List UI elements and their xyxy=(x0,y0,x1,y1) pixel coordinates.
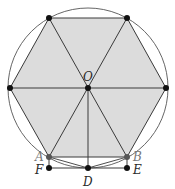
point-e xyxy=(124,165,130,171)
point-v2 xyxy=(124,15,130,21)
point-v6 xyxy=(7,85,13,91)
point-f xyxy=(46,165,52,171)
geometry-figure: O A B F E D xyxy=(0,0,175,189)
label-a: A xyxy=(34,150,44,164)
label-o: O xyxy=(83,70,93,84)
hexagon-circle-diagram: O A B F E D xyxy=(0,0,175,189)
label-f: F xyxy=(34,163,44,177)
label-e: E xyxy=(132,163,142,177)
label-d: D xyxy=(82,175,93,189)
point-v1 xyxy=(46,15,52,21)
point-o xyxy=(85,85,91,91)
point-a xyxy=(46,154,52,160)
point-b xyxy=(124,154,130,160)
point-v3 xyxy=(163,85,169,91)
point-d xyxy=(85,165,91,171)
chord-db xyxy=(88,157,127,168)
chord-ad xyxy=(49,157,88,168)
label-b: B xyxy=(132,150,142,164)
